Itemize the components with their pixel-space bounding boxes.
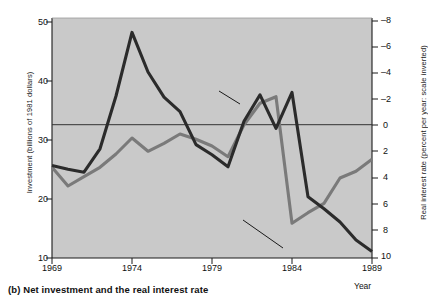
left-tick-marks (46, 22, 52, 258)
right-tick-marks (372, 21, 378, 258)
x-tick-marks (52, 258, 372, 264)
plot-panel (52, 18, 372, 258)
figure-caption: (b) Net investment and the real interest… (8, 284, 208, 295)
